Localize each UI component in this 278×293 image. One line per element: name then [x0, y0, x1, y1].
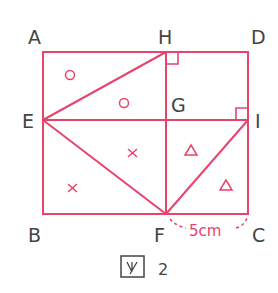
segment-eh	[43, 52, 166, 120]
cross-mark-1	[128, 149, 137, 157]
triangle-mark-2	[220, 180, 232, 190]
measurement-label: 5cm	[189, 222, 221, 240]
right-angle-mark-i	[236, 108, 248, 120]
label-h: H	[158, 26, 172, 48]
label-e: E	[22, 110, 34, 132]
circle-mark-2	[120, 99, 129, 108]
label-f: F	[154, 224, 165, 246]
segment-ef	[43, 120, 166, 214]
circle-mark-1	[66, 71, 75, 80]
label-d: D	[251, 26, 266, 48]
caption-box-glyph	[127, 262, 137, 274]
label-i: I	[255, 110, 261, 132]
label-c: C	[252, 224, 265, 246]
geometry-figure: 5cm A H D E G I B F C 2	[0, 0, 278, 293]
caption-number: 2	[158, 260, 168, 279]
segment-fi	[166, 120, 248, 214]
label-a: A	[28, 26, 41, 48]
label-b: B	[28, 224, 41, 246]
label-g: G	[171, 94, 186, 116]
cross-mark-2	[68, 184, 77, 192]
right-angle-mark-h	[166, 52, 178, 64]
triangle-mark-1	[185, 145, 197, 155]
